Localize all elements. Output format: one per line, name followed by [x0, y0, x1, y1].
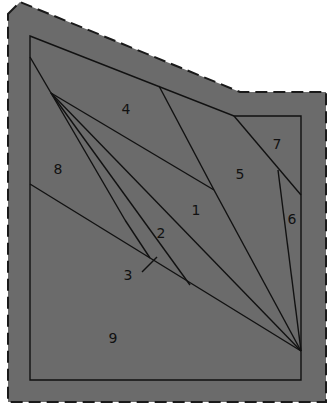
section-label-7: 7 [273, 136, 282, 152]
section-label-2: 2 [157, 225, 166, 241]
section-label-1: 1 [192, 202, 201, 218]
section-label-5: 5 [236, 166, 245, 182]
pattern-diagram: 123456789 [0, 0, 331, 407]
section-label-6: 6 [288, 211, 297, 227]
section-label-9: 9 [109, 330, 118, 346]
outer-seam-allowance [8, 2, 326, 402]
section-label-4: 4 [122, 101, 131, 117]
section-label-3: 3 [124, 267, 133, 283]
pattern-canvas: 123456789 [0, 0, 331, 407]
section-label-8: 8 [54, 161, 63, 177]
